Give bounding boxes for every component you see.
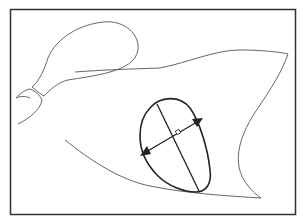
frame (11, 10, 296, 215)
diagram-canvas (0, 0, 303, 220)
long-axis (157, 104, 199, 191)
short-axis (140, 118, 203, 156)
arrowhead-right-icon (192, 118, 203, 127)
ovoid-region (140, 99, 210, 192)
wedge-shape (65, 50, 288, 198)
bulb-shape (16, 22, 138, 124)
